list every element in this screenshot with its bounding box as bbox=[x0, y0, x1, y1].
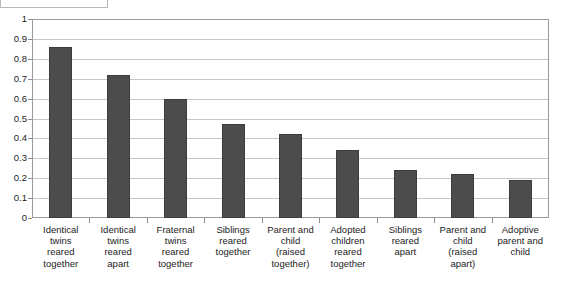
bar[interactable] bbox=[107, 75, 130, 218]
x-axis-category-label-line: child bbox=[434, 235, 491, 246]
y-axis-tick-label: 0.9 bbox=[3, 34, 27, 44]
x-axis-category-label-line: (raised bbox=[434, 246, 491, 257]
x-axis-category-label: Siblingsrearedtogether bbox=[204, 224, 261, 258]
bar[interactable] bbox=[279, 134, 302, 218]
bar[interactable] bbox=[509, 180, 532, 218]
bar[interactable] bbox=[222, 124, 245, 218]
x-axis-category-label-line: Identical bbox=[89, 224, 146, 235]
x-axis-category-label-line: reared bbox=[319, 246, 376, 257]
x-axis-category-label-line: Adopted bbox=[319, 224, 376, 235]
x-axis-category-label-line: together bbox=[204, 246, 261, 257]
x-axis-tick-mark bbox=[262, 218, 263, 223]
y-axis-tick-label: 0.8 bbox=[3, 54, 27, 64]
y-axis-tick-label: 0 bbox=[3, 213, 27, 223]
x-axis-category-label-line: reared bbox=[147, 246, 204, 257]
x-axis-category-label-line: parent and bbox=[492, 235, 549, 246]
x-axis-tick-mark bbox=[434, 218, 435, 223]
x-axis-category-label-line: Siblings bbox=[377, 224, 434, 235]
bars-layer bbox=[32, 19, 549, 218]
y-axis-tick-label: 0.6 bbox=[3, 94, 27, 104]
bar[interactable] bbox=[49, 47, 72, 218]
x-axis-category-label: Fraternaltwinsrearedtogether bbox=[147, 224, 204, 269]
x-axis-category-label-line: Adoptive bbox=[492, 224, 549, 235]
x-axis-tick-mark bbox=[377, 218, 378, 223]
bar[interactable] bbox=[164, 99, 187, 218]
bar[interactable] bbox=[394, 170, 417, 218]
x-axis-category-label-line: together bbox=[32, 258, 89, 269]
x-axis-category-label: Adoptedchildrenrearedtogether bbox=[319, 224, 376, 269]
x-axis-category-label-line: reared bbox=[89, 246, 146, 257]
x-axis-category-label: Siblingsrearedapart bbox=[377, 224, 434, 258]
x-axis-category-label: Identicaltwinsrearedtogether bbox=[32, 224, 89, 269]
x-axis-category-label-line: together bbox=[319, 258, 376, 269]
x-axis-category-label-line: reared bbox=[204, 235, 261, 246]
x-axis-tick-mark bbox=[492, 218, 493, 223]
x-axis-category-label-line: child bbox=[262, 235, 319, 246]
x-axis-category-label-line: together bbox=[147, 258, 204, 269]
x-axis-category-label: Adoptiveparent andchild bbox=[492, 224, 549, 258]
x-axis-category-label-line: (raised bbox=[262, 246, 319, 257]
x-axis-category-label-line: together) bbox=[262, 258, 319, 269]
x-axis-tick-mark bbox=[89, 218, 90, 223]
x-axis-category-label-line: apart bbox=[89, 258, 146, 269]
y-axis-tick-label: 0.1 bbox=[3, 193, 27, 203]
x-axis-labels: IdenticaltwinsrearedtogetherIdenticaltwi… bbox=[32, 224, 549, 286]
y-axis-tick-label: 1 bbox=[3, 14, 27, 24]
x-axis-category-label-line: Siblings bbox=[204, 224, 261, 235]
x-axis-category-label: Identicaltwinsrearedapart bbox=[89, 224, 146, 269]
bar-chart: 10.90.80.70.60.50.40.30.20.10 Identicalt… bbox=[0, 0, 563, 287]
y-axis-tick-label: 0.2 bbox=[3, 173, 27, 183]
y-axis-tick-label: 0.3 bbox=[3, 153, 27, 163]
x-axis-category-label-line: twins bbox=[32, 235, 89, 246]
x-axis-category-label-line: twins bbox=[89, 235, 146, 246]
x-axis-category-label-line: Fraternal bbox=[147, 224, 204, 235]
y-axis-tick-label: 0.5 bbox=[3, 114, 27, 124]
y-axis-tick-label: 0.7 bbox=[3, 74, 27, 84]
bar[interactable] bbox=[451, 174, 474, 218]
x-axis-tick-mark bbox=[147, 218, 148, 223]
x-axis-category-label-line: twins bbox=[147, 235, 204, 246]
x-axis-category-label-line: apart) bbox=[434, 258, 491, 269]
x-axis-category-label: Parent andchild(raisedtogether) bbox=[262, 224, 319, 269]
y-axis-tick-mark bbox=[28, 218, 32, 219]
y-axis-tick-label: 0.4 bbox=[3, 133, 27, 143]
bar[interactable] bbox=[336, 150, 359, 218]
x-axis-category-label-line: child bbox=[492, 246, 549, 257]
x-axis-category-label-line: reared bbox=[377, 235, 434, 246]
x-axis-tick-mark bbox=[319, 218, 320, 223]
x-axis-category-label-line: apart bbox=[377, 246, 434, 257]
x-axis-category-label-line: Parent and bbox=[434, 224, 491, 235]
x-axis-category-label-line: children bbox=[319, 235, 376, 246]
x-axis-tick-mark bbox=[204, 218, 205, 223]
x-axis-category-label: Parent andchild(raisedapart) bbox=[434, 224, 491, 269]
x-axis-category-label-line: Parent and bbox=[262, 224, 319, 235]
x-axis-category-label-line: reared bbox=[32, 246, 89, 257]
x-axis-category-label-line: Identical bbox=[32, 224, 89, 235]
